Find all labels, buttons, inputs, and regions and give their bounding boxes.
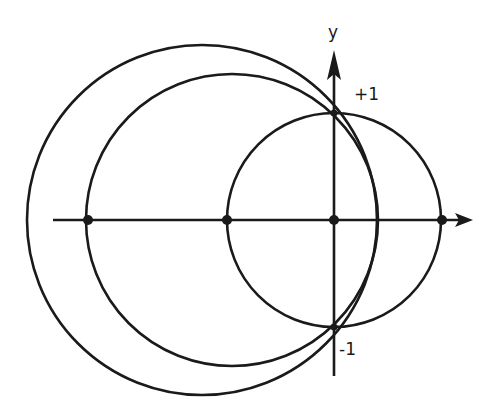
- point-dot: [437, 215, 447, 225]
- diagram-canvas: [0, 0, 489, 414]
- origin-dot: [329, 215, 339, 225]
- point-minus-one: [331, 324, 338, 331]
- minus-one-label: -1: [339, 341, 356, 358]
- point-dot: [83, 215, 93, 225]
- y-axis-label: y: [328, 24, 338, 41]
- point-dot: [222, 215, 232, 225]
- point-plus-one: [331, 110, 338, 117]
- coaxial-circles-diagram: y +1 -1: [0, 0, 489, 414]
- plus-one-label: +1: [354, 86, 379, 103]
